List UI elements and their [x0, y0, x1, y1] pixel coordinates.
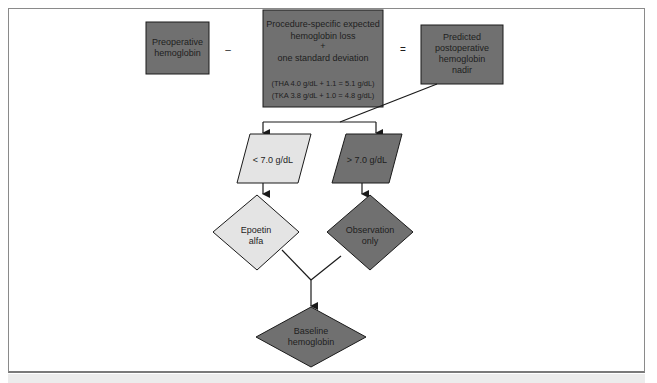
- edge-threshold-to-treatment: [263, 183, 362, 194]
- flowchart: Preoperative hemoglobin – Procedure-spec…: [0, 0, 657, 383]
- node-label: Procedure-specific expected: [266, 19, 380, 29]
- node-preoperative-hemoglobin: Preoperative hemoglobin: [146, 22, 209, 74]
- node-label: < 7.0 g/dL: [253, 155, 293, 165]
- node-detail-tka: (TKA 3.8 g/dL + 1.0 = 4.8 g/dL): [272, 91, 375, 100]
- node-label: nadir: [452, 65, 472, 75]
- node-above-threshold: > 7.0 g/dL: [332, 134, 402, 183]
- edge-join-to-baseline: [282, 250, 341, 306]
- node-label: hemoglobin: [439, 54, 486, 64]
- node-label: > 7.0 g/dL: [347, 155, 387, 165]
- minus-operator: –: [225, 44, 231, 55]
- node-label: only: [362, 236, 379, 246]
- node-expected-loss: Procedure-specific expected hemoglobin l…: [263, 10, 383, 107]
- node-label: Observation: [346, 225, 395, 235]
- node-label: one standard deviation: [277, 53, 368, 63]
- node-label: Epoetin: [241, 225, 272, 235]
- node-predicted-nadir: Predicted postoperative hemoglobin nadir: [421, 25, 503, 84]
- node-label: postoperative: [435, 43, 489, 53]
- node-label: hemoglobin loss: [290, 31, 356, 41]
- node-label: +: [320, 41, 325, 51]
- equals-operator: =: [400, 44, 406, 55]
- node-label: hemoglobin: [154, 48, 201, 58]
- node-label: Preoperative: [152, 37, 203, 47]
- node-label: hemoglobin: [288, 337, 335, 347]
- node-epoetin-alfa: Epoetin alfa: [213, 195, 299, 270]
- node-observation-only: Observation only: [327, 195, 413, 270]
- node-label: alfa: [249, 236, 264, 246]
- node-below-threshold: < 7.0 g/dL: [237, 134, 311, 183]
- node-label: Baseline: [294, 326, 329, 336]
- node-baseline-hemoglobin: Baseline hemoglobin: [256, 307, 366, 367]
- node-label: Predicted: [443, 32, 481, 42]
- node-detail-tha: (THA 4.0 g/dL + 1.1 = 5.1 g/dL): [271, 79, 375, 88]
